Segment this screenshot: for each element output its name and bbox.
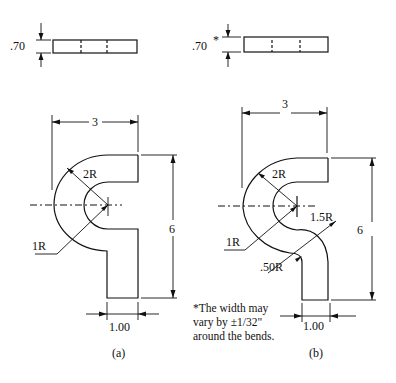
panel-b-radius-leaders: 2R 1R 1.5R .50R — [224, 167, 336, 274]
svg-text:around the bends.: around the bends. — [193, 330, 275, 342]
panel-b-stem-width-label: 1.00 — [303, 319, 324, 333]
panel-b-height-label: 6 — [357, 223, 363, 237]
panel-b-inner-radius-label: 1R — [226, 235, 240, 249]
panel-b-outer-radius-label: 2R — [272, 167, 286, 181]
panel-a-stem-dimension: 1.00 — [86, 302, 159, 334]
panel-a-width-label: 3 — [92, 115, 98, 129]
panel-b-note-marker: * — [213, 33, 219, 47]
svg-text:vary by ±1/32": vary by ±1/32" — [193, 316, 262, 329]
panel-a-caption: (a) — [112, 346, 125, 360]
panel-b-reverse-inner-radius-label: .50R — [260, 260, 283, 274]
technical-drawing: .70 3 2R 1R — [0, 0, 396, 383]
panel-a-edge-view: .70 — [10, 23, 137, 67]
panel-b: .70 * 3 2R 1R — [192, 24, 376, 360]
panel-b-thickness-label: .70 — [192, 39, 207, 53]
panel-a-height-label: 6 — [169, 222, 175, 236]
panel-a-height-dimension: 6 — [141, 155, 177, 298]
panel-a-radius-leaders: 2R 1R — [32, 167, 108, 254]
panel-b-note: *The width may vary by ±1/32" around the… — [193, 302, 275, 342]
panel-a-inner-radius-label: 1R — [32, 239, 46, 253]
panel-b-height-dimension: 6 — [331, 158, 376, 300]
panel-b-edge-view: .70 * — [192, 24, 328, 67]
panel-a-thickness-label: .70 — [10, 39, 25, 53]
svg-text:*The width may: *The width may — [193, 302, 269, 315]
panel-b-reverse-outer-radius-label: 1.5R — [310, 210, 333, 224]
panel-a: .70 3 2R 1R — [10, 23, 177, 360]
panel-a-stem-width-label: 1.00 — [109, 320, 130, 334]
panel-b-caption: (b) — [309, 346, 323, 360]
panel-a-outer-radius-label: 2R — [83, 167, 97, 181]
panel-b-width-label: 3 — [282, 97, 288, 111]
panel-b-stem-dimension: 1.00 — [280, 303, 356, 333]
